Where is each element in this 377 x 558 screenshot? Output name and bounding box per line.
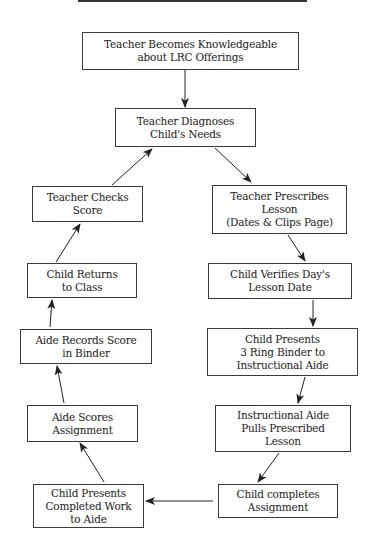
node-aide-pulls-lesson: Instructional Aide Pulls Prescribed Less… — [215, 405, 351, 452]
arrow-n12-to-n9 — [80, 443, 104, 482]
arrow-n2-to-n4 — [215, 148, 251, 182]
node-child-presents-work: Child Presents Completed Work to Aide — [33, 484, 144, 528]
node-teacher-prescribes-lesson: Teacher Prescribes Lesson (Dates & Clips… — [212, 185, 347, 234]
arrow-n8-to-n10 — [298, 377, 305, 403]
arrow-n9-to-n7 — [57, 366, 64, 403]
node-child-verifies-lesson-date: Child Verifies Day's Lesson Date — [208, 263, 352, 299]
node-teacher-diagnoses-needs: Teacher Diagnoses Child's Needs — [115, 108, 256, 147]
node-child-completes-assignment: Child completes Assignment — [218, 484, 338, 518]
arrow-n5-to-n3 — [56, 224, 80, 262]
node-aide-records-score: Aide Records Score in Binder — [20, 329, 152, 364]
arrow-n7-to-n5 — [50, 300, 52, 327]
node-teacher-checks-score: Teacher Checks Score — [32, 186, 143, 222]
arrow-n3-to-n2 — [112, 149, 152, 185]
node-teacher-becomes-knowledgeable: Teacher Becomes Knowledgeable about LRC … — [82, 32, 299, 70]
node-child-returns-to-class: Child Returns to Class — [27, 263, 137, 298]
arrow-n10-to-n11 — [258, 453, 279, 482]
arrow-n4-to-n6 — [288, 235, 305, 261]
node-aide-scores-assignment: Aide Scores Assignment — [27, 405, 138, 442]
node-child-presents-binder: Child Presents 3 Ring Binder to Instruct… — [207, 328, 358, 376]
